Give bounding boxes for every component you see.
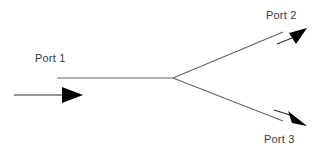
upper-output-arrow-shaft bbox=[277, 38, 292, 44]
upper-branch-line bbox=[173, 32, 283, 78]
up-right-arrow-icon bbox=[289, 28, 307, 44]
down-right-arrow-icon bbox=[288, 111, 307, 126]
port-2-label: Port 2 bbox=[266, 9, 297, 22]
right-arrow-icon bbox=[62, 87, 83, 103]
lower-output-arrow-shaft bbox=[274, 110, 290, 115]
port-1-label: Port 1 bbox=[35, 52, 66, 65]
diagram-canvas: Port 1 Port 2 Port 3 bbox=[0, 0, 320, 153]
lower-branch-line bbox=[173, 78, 283, 121]
port-junction-diagram bbox=[0, 0, 320, 153]
port-3-label: Port 3 bbox=[264, 133, 295, 146]
